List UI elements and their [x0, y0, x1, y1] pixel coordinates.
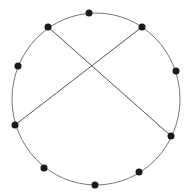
circle-point: [92, 182, 99, 189]
circle-point: [139, 24, 146, 31]
circle-point: [173, 68, 180, 75]
circle-point: [41, 165, 48, 172]
outer-circle: [12, 13, 180, 185]
circle-chord-diagram: [0, 0, 187, 193]
chords-group: [15, 27, 171, 136]
circle-point: [86, 10, 93, 17]
points-group: [12, 10, 180, 189]
chord-line: [15, 27, 142, 125]
circle-point: [45, 24, 52, 31]
chord-line: [48, 27, 171, 136]
circle-point: [136, 169, 143, 176]
circle-point: [12, 122, 19, 129]
circle-point: [168, 133, 175, 140]
circle-point: [15, 63, 22, 70]
